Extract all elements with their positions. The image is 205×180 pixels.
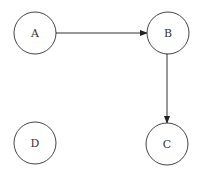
node-b: B — [147, 12, 189, 54]
node-a-label: A — [30, 27, 40, 40]
node-a: A — [14, 12, 56, 54]
node-d-label: D — [31, 137, 40, 150]
node-c: C — [146, 123, 188, 165]
graph-diagram: A B C D — [0, 0, 205, 180]
node-b-label: B — [164, 27, 172, 40]
node-c-label: C — [163, 138, 171, 151]
node-d: D — [14, 122, 56, 164]
